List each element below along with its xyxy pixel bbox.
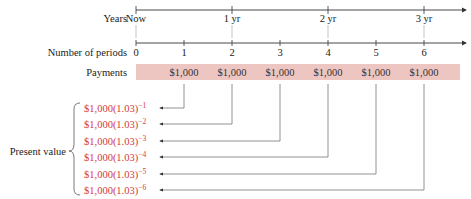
present-value-item: $1,000(1.03)−5 (84, 167, 146, 181)
discount-arrows (160, 84, 424, 190)
period-tick: 6 (421, 47, 426, 58)
payments-row-label: Payments (86, 67, 127, 78)
present-value-item: $1,000(1.03)−1 (84, 101, 146, 115)
payment-value: $1,000 (170, 67, 199, 78)
payment-value: $1,000 (410, 67, 439, 78)
present-value-item: $1,000(1.03)−4 (84, 150, 146, 164)
periods-row-label: Number of periods (48, 47, 127, 58)
payment-value: $1,000 (362, 67, 391, 78)
years-axis: Now 1 yr 2 yr 3 yr (126, 6, 466, 38)
timeline-diagram: Years Number of periods Payments Present… (0, 0, 471, 199)
period-tick: 1 (181, 47, 186, 58)
payments-band: $1,000 $1,000 $1,000 $1,000 $1,000 $1,00… (136, 64, 460, 80)
years-row-label: Years (104, 13, 127, 24)
period-tick: 0 (133, 47, 138, 58)
period-tick: 2 (229, 47, 234, 58)
periods-axis: 0 1 2 3 4 5 6 (133, 40, 466, 58)
payment-value: $1,000 (266, 67, 295, 78)
period-tick: 4 (325, 47, 331, 58)
year-tick-now: Now (126, 13, 147, 24)
present-value-label: Present value (10, 146, 67, 157)
payment-value: $1,000 (218, 67, 247, 78)
year-tick-3: 3 yr (416, 13, 433, 24)
payment-value: $1,000 (314, 67, 343, 78)
present-value-brace (69, 103, 80, 195)
period-tick: 5 (373, 47, 378, 58)
present-value-item: $1,000(1.03)−2 (84, 117, 146, 131)
present-value-item: $1,000(1.03)−6 (84, 183, 146, 197)
year-tick-2: 2 yr (320, 13, 337, 24)
present-value-item: $1,000(1.03)−3 (84, 134, 146, 148)
present-value-list: $1,000(1.03)−1 $1,000(1.03)−2 $1,000(1.0… (84, 101, 146, 197)
year-tick-1: 1 yr (224, 13, 241, 24)
period-tick: 3 (277, 47, 282, 58)
